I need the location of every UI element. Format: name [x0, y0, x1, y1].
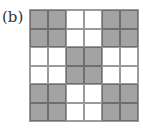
- shaded-cell: [66, 66, 84, 85]
- shaded-cell: [84, 66, 102, 85]
- empty-cell: [30, 47, 48, 66]
- shaded-cell: [102, 103, 120, 122]
- shaded-cell: [102, 29, 120, 48]
- empty-cell: [30, 66, 48, 85]
- figure-label: (b): [2, 8, 23, 26]
- shaded-cell: [120, 29, 138, 48]
- empty-cell: [48, 47, 66, 66]
- shaded-cell: [120, 103, 138, 122]
- shaded-cell: [30, 29, 48, 48]
- shaded-cell: [48, 84, 66, 103]
- shaded-cell: [30, 103, 48, 122]
- shaded-cell: [84, 47, 102, 66]
- empty-cell: [84, 103, 102, 122]
- empty-cell: [102, 47, 120, 66]
- empty-cell: [48, 66, 66, 85]
- empty-cell: [84, 29, 102, 48]
- shaded-cell: [102, 84, 120, 103]
- shaded-cell: [102, 10, 120, 29]
- shaded-cell: [66, 47, 84, 66]
- shaded-cell: [120, 10, 138, 29]
- shaded-cell: [48, 10, 66, 29]
- empty-cell: [66, 10, 84, 29]
- shaded-cell: [48, 29, 66, 48]
- empty-cell: [66, 103, 84, 122]
- empty-cell: [84, 10, 102, 29]
- shaded-cell: [30, 84, 48, 103]
- empty-cell: [66, 29, 84, 48]
- empty-cell: [102, 66, 120, 85]
- shaded-cell: [120, 84, 138, 103]
- shaded-cell: [48, 103, 66, 122]
- empty-cell: [84, 84, 102, 103]
- shaded-cell: [30, 10, 48, 29]
- checker-grid: [29, 9, 139, 122]
- empty-cell: [120, 47, 138, 66]
- empty-cell: [66, 84, 84, 103]
- empty-cell: [120, 66, 138, 85]
